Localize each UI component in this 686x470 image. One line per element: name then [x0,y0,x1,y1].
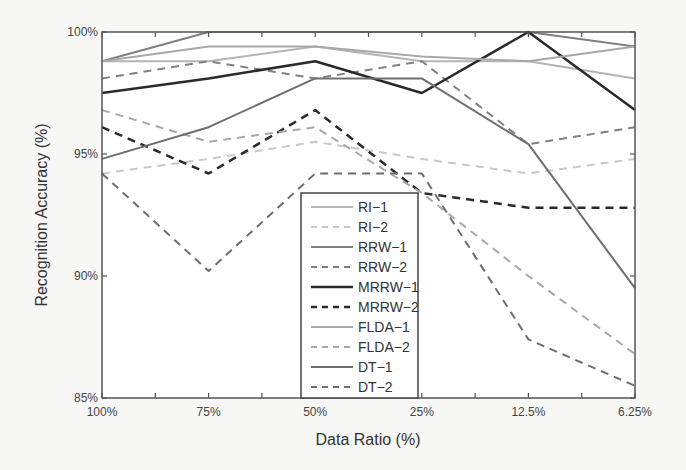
legend-label: DT−1 [358,359,393,375]
x-tick-label: 25% [410,405,434,419]
y-axis-label: Recognition Accuracy (%) [33,123,50,306]
x-tick-label: 6.25% [618,405,652,419]
line-chart: 100%75%50%25%12.5%6.25%85%90%95%100% Dat… [0,0,686,470]
legend-label: RI−1 [358,199,388,215]
legend: RI−1RI−2RRW−1RRW−2MRRW−1MRRW−2FLDA−1FLDA… [301,193,419,398]
legend-label: RRW−1 [358,239,407,255]
x-tick-label: 100% [87,405,118,419]
legend-label: MRRW−1 [358,279,419,295]
legend-label: RRW−2 [358,259,407,275]
y-tick-label: 85% [74,391,98,405]
legend-label: MRRW−2 [358,299,419,315]
x-tick-label: 12.5% [511,405,545,419]
legend-label: DT−2 [358,379,393,395]
legend-label: FLDA−1 [358,319,410,335]
x-tick-label: 75% [197,405,221,419]
y-tick-label: 95% [74,147,98,161]
x-axis-label: Data Ratio (%) [316,431,421,448]
x-tick-label: 50% [303,405,327,419]
legend-label: FLDA−2 [358,339,410,355]
legend-label: RI−2 [358,219,388,235]
y-tick-label: 90% [74,269,98,283]
y-tick-label: 100% [67,25,98,39]
